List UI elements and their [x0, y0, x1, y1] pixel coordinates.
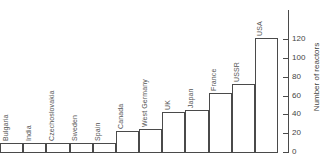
bar-category-label: Spain	[94, 122, 101, 140]
y-axis-tick	[283, 77, 289, 78]
bar[interactable]	[162, 112, 185, 153]
bar-category-label: Canada	[117, 104, 124, 129]
y-axis-tick-label: 40	[292, 110, 301, 118]
bar-slot: USSR	[232, 0, 255, 152]
bar-slot: Spain	[93, 0, 116, 152]
bar[interactable]	[255, 38, 278, 152]
bar-category-label: Japan	[186, 88, 193, 108]
bar-category-label: UK	[163, 100, 170, 110]
bar[interactable]	[93, 143, 116, 152]
bar-slot: Canada	[116, 0, 139, 152]
bar[interactable]	[116, 131, 139, 152]
bar-category-label: West Germany	[140, 80, 147, 128]
y-axis-tick-label: 20	[292, 129, 301, 137]
bar-category-label: USSR	[233, 62, 240, 82]
bar[interactable]	[23, 143, 46, 152]
y-axis-tick	[283, 152, 289, 153]
bar[interactable]	[209, 93, 232, 152]
bar-slot: Bulgaria	[0, 0, 23, 152]
bar-slot: Czechoslovakia	[46, 0, 69, 152]
y-axis-tick	[283, 96, 289, 97]
bar-slot: France	[209, 0, 232, 152]
bar-slot: Japan	[185, 0, 208, 152]
y-axis-line	[288, 10, 289, 153]
y-axis-tick-label: 120	[292, 35, 305, 43]
y-axis-tick	[283, 39, 289, 40]
bar-category-label: USA	[256, 21, 263, 36]
y-axis-tick-label: 0	[292, 148, 296, 156]
bar[interactable]	[139, 129, 162, 152]
bar[interactable]	[0, 143, 23, 152]
bar-slot: Sweden	[70, 0, 93, 152]
bar-category-label: France	[210, 68, 217, 90]
y-axis-tick	[283, 58, 289, 59]
x-axis-baseline	[0, 152, 278, 153]
bar[interactable]	[232, 84, 255, 152]
y-axis-tick-label: 80	[292, 73, 301, 81]
bar[interactable]	[185, 110, 208, 152]
y-axis-title: Number of reactors	[313, 43, 321, 111]
bar-category-label: Sweden	[71, 115, 78, 141]
bar-category-label: Bulgaria	[1, 114, 8, 140]
bar-series: BulgariaIndiaCzechoslovakiaSwedenSpainCa…	[0, 0, 278, 152]
bar-chart: BulgariaIndiaCzechoslovakiaSwedenSpainCa…	[0, 0, 327, 165]
bar[interactable]	[70, 143, 93, 152]
y-axis-tick-label: 60	[292, 92, 301, 100]
bar-category-label: India	[24, 125, 31, 141]
bar-slot: USA	[255, 0, 278, 152]
bar-slot: West Germany	[139, 0, 162, 152]
bar-category-label: Czechoslovakia	[47, 90, 54, 140]
bar-slot: UK	[162, 0, 185, 152]
plot-area: BulgariaIndiaCzechoslovakiaSwedenSpainCa…	[0, 0, 278, 153]
y-axis-tick	[283, 133, 289, 134]
y-axis-tick-label: 100	[292, 54, 305, 62]
y-axis-tick	[283, 114, 289, 115]
bar[interactable]	[46, 143, 69, 152]
bar-slot: India	[23, 0, 46, 152]
